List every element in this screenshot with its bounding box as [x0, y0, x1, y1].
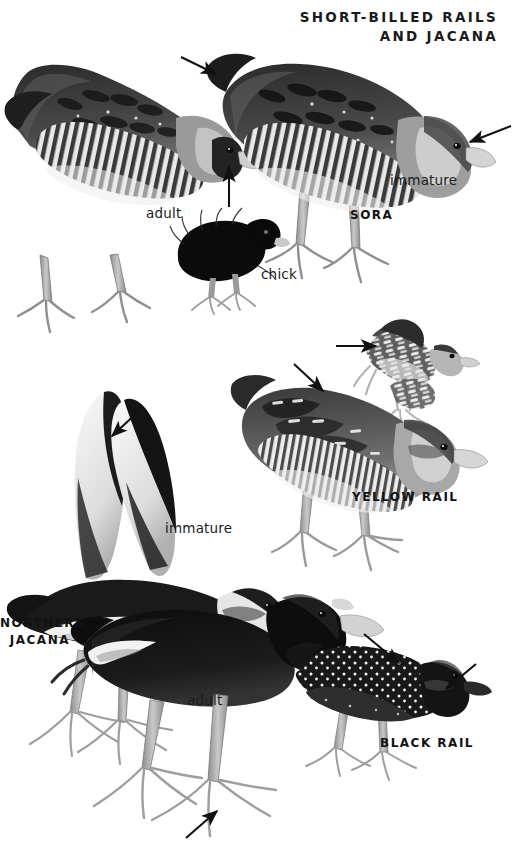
- label-sora-immature: immature: [390, 172, 457, 188]
- label-yellow-rail-species: YELLOW RAIL: [352, 490, 459, 504]
- figure-sora-adult: [5, 65, 267, 332]
- page-title: SHORT-BILLED RAILS AND JACANA: [300, 8, 498, 46]
- label-sora-chick: chick: [261, 266, 297, 282]
- figure-sora-immature: [207, 54, 496, 282]
- arrow-yellow-rail-back: [294, 364, 323, 391]
- figure-northern-jacana-adult: [52, 594, 384, 836]
- arrow-sora-immature-wing: [181, 57, 216, 74]
- label-jacana-species: NORTHERN JACANA: [0, 615, 70, 649]
- arrow-sora-immature-bill: [470, 126, 511, 142]
- arrow-jacana-wing: [112, 409, 141, 436]
- arrow-black-rail-back: [364, 634, 399, 663]
- field-guide-plate: SHORT-BILLED RAILS AND JACANA: [0, 0, 514, 863]
- figure-sora-chick: [170, 208, 290, 314]
- figure-yellow-rail-flying: [354, 319, 480, 428]
- label-jacana-immature: immature: [165, 520, 232, 536]
- label-sora-species: SORA: [350, 208, 393, 222]
- arrow-black-rail-bill: [446, 664, 476, 689]
- page-title-line1: SHORT-BILLED RAILS: [300, 8, 498, 27]
- figure-black-rail: [287, 643, 492, 780]
- page-title-line2: AND JACANA: [300, 27, 498, 46]
- plate-artwork: [0, 0, 514, 863]
- arrow-jacana-toes: [186, 811, 217, 838]
- figure-yellow-rail-standing: [231, 375, 488, 570]
- figure-northern-jacana-immature: [7, 391, 322, 764]
- label-black-rail-species: BLACK RAIL: [380, 736, 474, 750]
- label-sora-adult: adult: [146, 205, 181, 221]
- label-jacana-species-line2: JACANA: [0, 632, 70, 649]
- label-jacana-adult: adult: [187, 692, 222, 708]
- label-jacana-species-line1: NORTHERN: [0, 615, 70, 632]
